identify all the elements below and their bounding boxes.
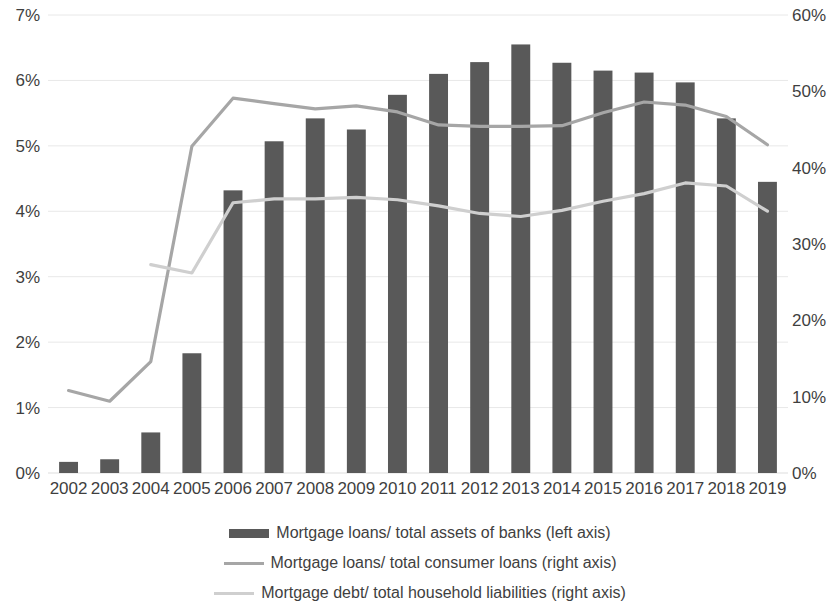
legend-bar-icon — [229, 529, 269, 538]
line-series-1 — [69, 98, 768, 401]
legend-line-icon — [214, 592, 254, 595]
legend-item[interactable]: Mortgage debt/ total household liabiliti… — [0, 578, 832, 608]
line-series-2 — [151, 183, 768, 273]
y-axis-right: 0%10%20%30%40%50%60% — [792, 15, 832, 473]
bar-2012 — [470, 62, 489, 473]
legend-item-label: Mortgage loans/ total assets of banks (l… — [276, 524, 610, 542]
x-tick-label-2006: 2006 — [214, 479, 252, 499]
y-right-tick-label: 40% — [792, 159, 826, 176]
x-tick-label-2007: 2007 — [255, 479, 293, 499]
x-tick-label-2019: 2019 — [749, 479, 787, 499]
x-tick-label-2008: 2008 — [296, 479, 334, 499]
y-right-tick-label: 20% — [792, 312, 826, 329]
x-tick-label-2004: 2004 — [132, 479, 170, 499]
y-right-tick-label: 10% — [792, 388, 826, 405]
chart-container: 0%1%2%3%4%5%6%7% 0%10%20%30%40%50%60% 20… — [0, 0, 832, 610]
bar-2016 — [635, 73, 654, 473]
x-tick-label-2005: 2005 — [173, 479, 211, 499]
y-left-tick-label: 6% — [15, 72, 40, 89]
y-left-tick-label: 4% — [15, 203, 40, 220]
chart-svg — [48, 15, 788, 473]
x-tick-label-2018: 2018 — [707, 479, 745, 499]
x-tick-label-2002: 2002 — [50, 479, 88, 499]
x-tick-label-2003: 2003 — [91, 479, 129, 499]
legend-line-icon — [224, 562, 264, 565]
x-tick-label-2009: 2009 — [337, 479, 375, 499]
bar-2002 — [59, 462, 78, 473]
y-right-tick-label: 60% — [792, 7, 826, 24]
bar-2019 — [758, 182, 777, 473]
plot-area — [48, 15, 788, 473]
x-tick-label-2012: 2012 — [461, 479, 499, 499]
x-tick-label-2010: 2010 — [379, 479, 417, 499]
bar-2007 — [265, 141, 284, 473]
y-right-tick-label: 50% — [792, 83, 826, 100]
y-left-tick-label: 3% — [15, 268, 40, 285]
y-left-tick-label: 1% — [15, 399, 40, 416]
bar-2010 — [388, 95, 407, 473]
x-tick-label-2014: 2014 — [543, 479, 581, 499]
x-tick-label-2016: 2016 — [625, 479, 663, 499]
y-right-tick-label: 0% — [792, 465, 817, 482]
legend-item-label: Mortgage debt/ total household liabiliti… — [261, 584, 626, 602]
x-tick-label-2013: 2013 — [502, 479, 540, 499]
x-tick-label-2017: 2017 — [666, 479, 704, 499]
y-axis-left: 0%1%2%3%4%5%6%7% — [0, 15, 40, 473]
y-right-tick-label: 30% — [792, 236, 826, 253]
x-tick-label-2011: 2011 — [420, 479, 457, 499]
bar-2018 — [717, 118, 736, 473]
legend-item[interactable]: Mortgage loans/ total consumer loans (ri… — [0, 548, 832, 578]
x-axis: 2002200320042005200620072008200920102011… — [48, 479, 788, 503]
bar-2009 — [347, 130, 366, 474]
chart-legend: Mortgage loans/ total assets of banks (l… — [0, 518, 832, 608]
y-left-tick-label: 2% — [15, 334, 40, 351]
bar-2015 — [594, 71, 613, 473]
bar-2005 — [182, 353, 201, 473]
bar-2003 — [100, 459, 119, 473]
x-tick-label-2015: 2015 — [584, 479, 622, 499]
y-left-tick-label: 0% — [15, 465, 40, 482]
legend-item[interactable]: Mortgage loans/ total assets of banks (l… — [0, 518, 832, 548]
y-left-tick-label: 7% — [15, 7, 40, 24]
y-left-tick-label: 5% — [15, 137, 40, 154]
bar-2013 — [511, 44, 530, 473]
bar-2008 — [306, 118, 325, 473]
bar-2004 — [141, 432, 160, 473]
legend-item-label: Mortgage loans/ total consumer loans (ri… — [271, 554, 617, 572]
bar-2006 — [224, 190, 243, 473]
bar-2011 — [429, 74, 448, 473]
bar-2017 — [676, 82, 695, 473]
